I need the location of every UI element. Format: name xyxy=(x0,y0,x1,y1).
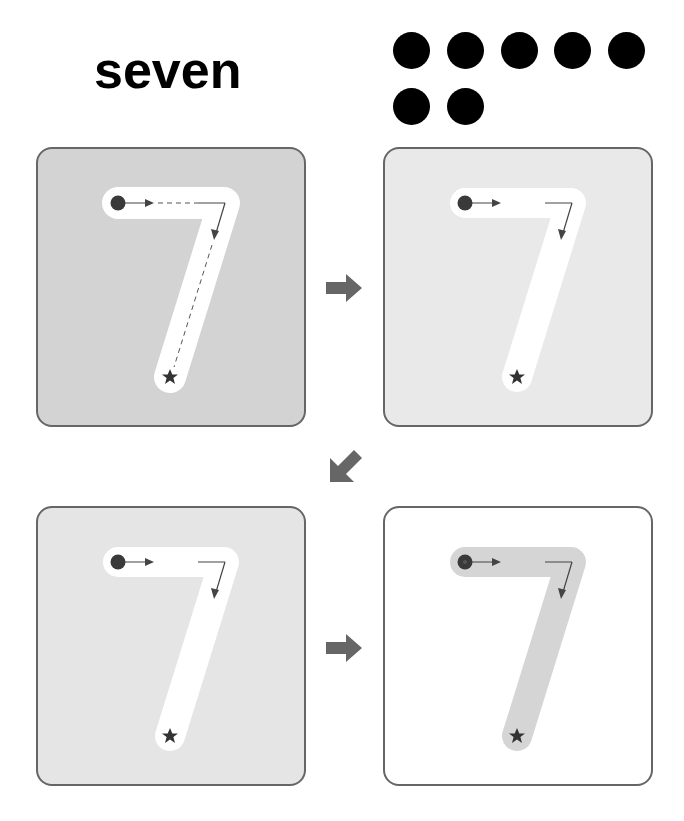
count-dot xyxy=(393,88,430,125)
start-dot-icon xyxy=(458,196,473,211)
trace-panel-step-4 xyxy=(383,506,653,786)
count-dot xyxy=(447,32,484,69)
trace-panel-step-1 xyxy=(36,147,306,427)
seven-trace-path xyxy=(38,149,306,427)
right-arrow-icon xyxy=(326,274,366,302)
start-dot-icon xyxy=(111,196,126,211)
number-word: seven xyxy=(94,44,241,96)
start-dot-icon xyxy=(111,555,126,570)
count-dot xyxy=(447,88,484,125)
count-dot xyxy=(501,32,538,69)
trace-panel-step-3 xyxy=(36,506,306,786)
right-arrow-icon xyxy=(326,634,366,662)
count-dot xyxy=(393,32,430,69)
seven-trace-path xyxy=(38,508,306,786)
seven-trace-path xyxy=(385,149,653,427)
seven-trace-path xyxy=(385,508,653,786)
count-dot xyxy=(608,32,645,69)
trace-panel-step-2 xyxy=(383,147,653,427)
count-dot xyxy=(554,32,591,69)
down-left-arrow-icon xyxy=(328,448,364,484)
